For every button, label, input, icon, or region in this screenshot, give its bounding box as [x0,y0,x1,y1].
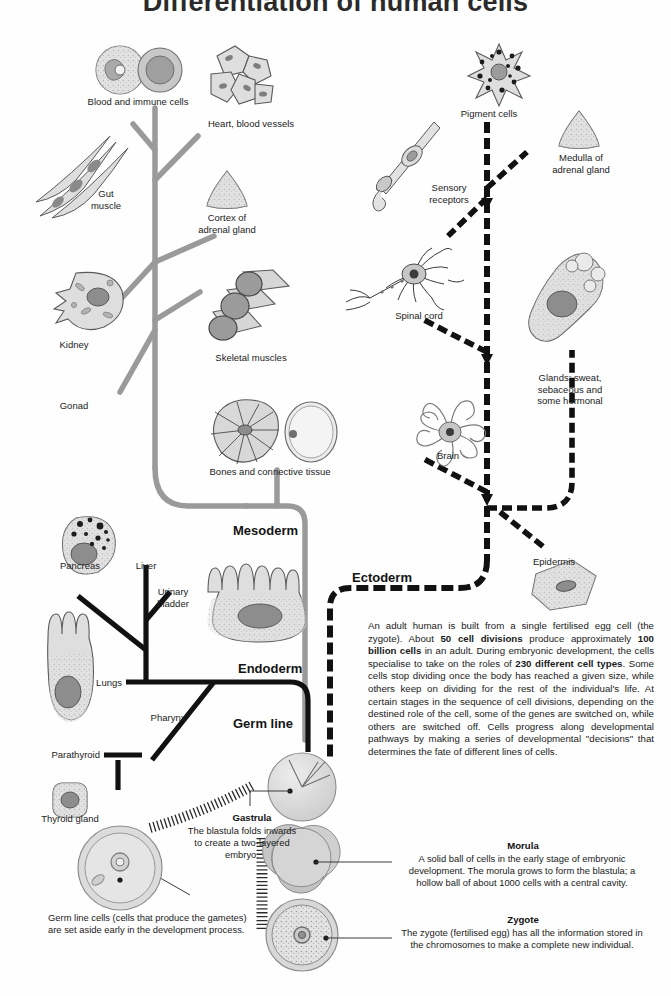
bone-connective-tissue-art [207,398,339,468]
label-pancreas: Pancreas [48,560,112,572]
label-medulla-of-adrenal-gland: Medulla of adrenal gland [538,152,624,175]
blood-immune-cells-art [92,44,184,96]
label-pharynx: Pharynx [140,712,196,724]
intro-bold-types: 230 different cell types [515,658,622,669]
label-brain: Brain [424,450,472,462]
kidney-cell-art [52,265,130,337]
label-gonad: Gonad [46,400,102,412]
label-skeletal-muscles: Skeletal muscles [203,352,299,364]
label-heart-blood-vessels: Heart, blood vessels [196,118,306,130]
label-cortex-of-adrenal-gland: Cortex of adrenal gland [186,212,268,235]
intro-text-e: . Some cells stop dividing once the body… [368,658,654,757]
label-pigment-cells: Pigment cells [447,108,531,120]
gland-cell-art [522,248,610,354]
heading-germ-line: Germ line [233,716,293,731]
intro-paragraph: An adult human is built from a single fe… [368,620,654,759]
morula-body: A solid ball of cells in the early stage… [398,853,646,889]
morula-title: Morula [398,840,648,851]
label-sensory-receptors: Sensory receptors [418,182,480,205]
zygote-body: The zygote (fertilised egg) has all the … [398,927,646,951]
gastrula-cell [268,753,336,821]
label-gut-muscle: Gut muscle [80,188,132,211]
lung-cell-art [38,608,102,724]
germ-line-cell [78,826,162,910]
gut-muscle-art [32,130,136,226]
skeletal-muscle-art [205,268,295,342]
gastrula-body: The blastula folds inwards to create a t… [186,825,298,861]
heading-ectoderm: Ectoderm [352,570,412,585]
label-bones-and-connective-tissue: Bones and connective tissue [196,466,344,478]
germ-line-note: Germ line cells (cells that produce the … [48,912,260,936]
heart-blood-vessels-art [203,40,281,110]
label-glands-sweat-sebaceous: Glands: sweat, sebaceous and some hormon… [522,372,618,407]
intro-bold-divisions: 50 cell divisions [440,633,522,644]
label-parathyroid: Parathyroid [20,749,100,761]
label-spinal-cord: Spinal cord [384,310,454,322]
label-liver: Liver [122,560,170,572]
diagram-canvas: Differentiation of human cells [0,0,671,996]
urinary-bladder-art [198,558,314,632]
zygote-cell [266,899,338,971]
adrenal-medulla-art [555,108,603,152]
label-kidney: Kidney [46,339,102,351]
adrenal-cortex-art [203,168,251,212]
label-lungs: Lungs [62,677,122,689]
page-title: Differentiation of human cells [0,0,671,18]
heading-endoderm: Endoderm [238,661,302,676]
zygote-title: Zygote [398,914,648,925]
label-blood-and-immune-cells: Blood and immune cells [86,96,190,108]
label-thyroid-gland: Thyroid gland [28,813,112,825]
intro-text-c: produce approximately [523,633,638,644]
spinal-cord-neuron-art [344,240,476,316]
heading-mesoderm: Mesoderm [233,523,298,538]
pigment-cell-art [466,38,532,106]
gastrula-title: Gastrula [206,812,298,823]
label-epidermis: Epidermis [518,556,590,568]
label-urinary-bladder: Urinary bladder [148,586,198,609]
